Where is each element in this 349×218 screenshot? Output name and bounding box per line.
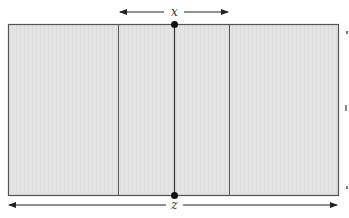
diagram: x z <box>0 0 349 218</box>
top-dimension-label: x <box>171 5 178 19</box>
right-edge-mark-top <box>346 31 348 34</box>
bottom-dimension-label: z <box>170 198 178 212</box>
right-edge-mark-middle <box>345 105 347 111</box>
main-rectangle <box>9 25 339 196</box>
top-center-dot <box>171 21 178 28</box>
right-edge-mark-bottom <box>346 186 348 189</box>
